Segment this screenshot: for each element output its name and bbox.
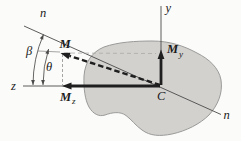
moment-label: M <box>59 37 72 51</box>
moment-y-label-sub: y <box>178 49 183 59</box>
moment-tip-horizontal-line <box>38 51 60 52</box>
theta-arc-arrowhead-bottom <box>41 80 45 85</box>
beta-arc-arrowhead-bottom <box>31 80 35 85</box>
beta-angle-label: β <box>25 44 33 58</box>
cross-section-shape <box>84 41 222 135</box>
y-axis-label: y <box>164 1 172 15</box>
moment-y-label: M <box>166 42 179 56</box>
moment-z-label-sub: z <box>71 96 76 106</box>
moment-z-arrowhead <box>62 83 72 90</box>
z-axis-label: z <box>10 79 16 93</box>
n-axis-label-top: n <box>40 6 46 20</box>
beta-angle-arc <box>33 35 44 86</box>
centroid-label: C <box>157 89 166 103</box>
theta-angle-label: θ <box>46 60 52 74</box>
moment-cross-section-figure: y n β M θ z M z M y C n <box>0 0 241 141</box>
moment-vector-arrowhead <box>59 50 70 59</box>
moment-z-label: M <box>59 90 72 104</box>
n-axis-label-bottom: n <box>224 108 230 122</box>
